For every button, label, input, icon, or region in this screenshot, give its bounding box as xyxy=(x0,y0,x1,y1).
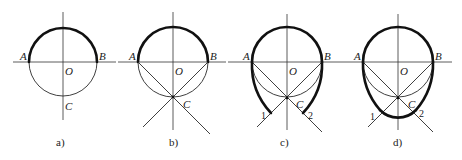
label-b: B xyxy=(435,50,442,62)
caption-c: c) xyxy=(280,136,289,149)
label-1: 1 xyxy=(261,110,266,121)
label-c: C xyxy=(65,100,73,112)
label-2: 2 xyxy=(419,108,424,119)
label-o: O xyxy=(400,65,408,77)
label-c: C xyxy=(296,98,304,110)
egg-shape-construction-diagram: A B O C a) A B O C b) A B O xyxy=(0,0,462,160)
figure-d: A B O C 1 2 d) xyxy=(340,14,452,149)
point-c xyxy=(172,96,175,99)
label-1: 1 xyxy=(370,111,375,122)
arc-1 xyxy=(363,62,380,110)
figure-a: A B O C a) xyxy=(13,12,116,149)
caption-d: d) xyxy=(393,136,403,149)
arc-2 xyxy=(416,62,433,110)
figure-b: A B O C b) xyxy=(118,12,226,149)
point-c xyxy=(286,97,289,100)
label-2: 2 xyxy=(308,110,313,121)
label-b: B xyxy=(210,50,217,62)
point-c xyxy=(397,97,400,100)
label-a: A xyxy=(128,50,136,62)
arc-1 xyxy=(252,62,271,113)
label-o: O xyxy=(289,65,297,77)
line-a-through-c xyxy=(138,62,210,134)
label-o: O xyxy=(65,65,73,77)
label-a: A xyxy=(242,50,250,62)
label-c: C xyxy=(183,98,191,110)
label-b: B xyxy=(99,50,106,62)
label-a: A xyxy=(353,50,361,62)
caption-b: b) xyxy=(169,136,179,149)
caption-a: a) xyxy=(56,136,65,149)
label-c: C xyxy=(408,98,416,110)
label-b: B xyxy=(324,50,331,62)
label-o: O xyxy=(175,65,183,77)
arc-2 xyxy=(303,62,322,113)
figure-c: A B O C 1 2 c) xyxy=(228,14,340,149)
label-a: A xyxy=(19,50,27,62)
